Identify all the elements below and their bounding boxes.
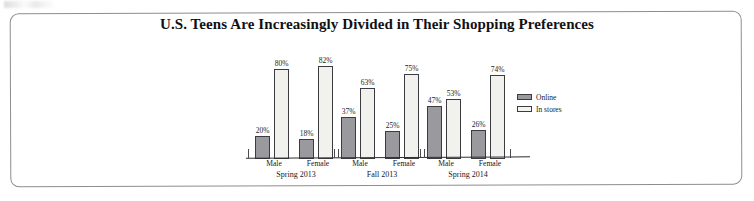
bar-pair: 20%80% — [252, 44, 296, 159]
bar-in-stores — [490, 75, 505, 159]
x-axis-period-label: Spring 2014 — [423, 170, 513, 179]
bar-slot: 53% — [446, 44, 461, 159]
x-axis-category-label: Female — [294, 159, 342, 168]
bar-slot: 25% — [385, 44, 400, 159]
bar-value-label: 25% — [386, 121, 400, 130]
bar-slot: 26% — [471, 44, 486, 159]
bar-value-label: 53% — [447, 89, 461, 98]
x-axis-category-label: Female — [380, 159, 428, 168]
bar-pair: 37%63% — [338, 44, 382, 159]
bar-slot: 18% — [299, 44, 314, 159]
bar-slot: 37% — [341, 44, 356, 159]
bar-slot: 75% — [404, 44, 419, 159]
legend-item-online: Online — [517, 92, 562, 102]
bar-online — [471, 130, 486, 159]
bar-slot: 63% — [360, 44, 375, 159]
bar-in-stores — [404, 74, 419, 159]
bar-online — [341, 117, 356, 159]
x-axis-category-label: Female — [466, 159, 514, 168]
bar-value-label: 82% — [319, 56, 333, 65]
bar-group: 47%53%26%74% — [424, 44, 512, 159]
chart-legend: Online In stores — [517, 92, 562, 116]
bar-group: 37%63%25%75% — [338, 44, 426, 159]
x-axis-period-label: Fall 2013 — [337, 170, 427, 179]
x-axis-tick — [338, 149, 339, 158]
scan-artifact — [4, 1, 56, 8]
x-axis-tick — [334, 149, 335, 158]
bar-value-label: 75% — [405, 64, 419, 73]
x-axis-category-label: Male — [336, 159, 384, 168]
bar-group: 20%80%18%82% — [252, 44, 340, 159]
plot-area: 20%80%18%82%37%63%25%75%47%53%26%74% — [248, 44, 536, 159]
bar-value-label: 26% — [472, 120, 486, 129]
bar-value-label: 37% — [342, 107, 356, 116]
x-axis-tick — [420, 149, 421, 158]
bar-value-label: 63% — [361, 78, 375, 87]
bar-slot: 80% — [274, 44, 289, 159]
bar-pair: 26%74% — [468, 44, 512, 159]
x-axis-category-label: Male — [422, 159, 470, 168]
bar-online — [255, 136, 270, 159]
bar-slot: 20% — [255, 44, 270, 159]
bar-slot: 74% — [490, 44, 505, 159]
x-axis-category-label: Male — [250, 159, 298, 168]
x-axis-tick — [510, 149, 511, 158]
legend-label-in-stores: In stores — [536, 105, 562, 114]
bar-pair: 18%82% — [296, 44, 340, 159]
legend-label-online: Online — [536, 93, 556, 102]
legend-item-in-stores: In stores — [517, 104, 562, 114]
bar-slot: 82% — [318, 44, 333, 159]
x-axis-period-label: Spring 2013 — [251, 170, 341, 179]
bar-value-label: 80% — [275, 59, 289, 68]
bar-in-stores — [318, 66, 333, 159]
x-axis-tick — [248, 149, 249, 158]
bar-in-stores — [274, 69, 289, 159]
bar-online — [385, 131, 400, 159]
bar-online — [299, 139, 314, 159]
bar-value-label: 47% — [428, 96, 442, 105]
bar-value-label: 20% — [256, 126, 270, 135]
bar-pair: 25%75% — [382, 44, 426, 159]
bar-pair: 47%53% — [424, 44, 468, 159]
bar-online — [427, 106, 442, 159]
bar-value-label: 18% — [300, 129, 314, 138]
x-axis-tick — [424, 149, 425, 158]
bar-value-label: 74% — [491, 65, 505, 74]
legend-swatch-online-icon — [517, 94, 532, 100]
bar-slot: 47% — [427, 44, 442, 159]
chart-title: U.S. Teens Are Increasingly Divided in T… — [0, 16, 754, 33]
bar-in-stores — [446, 99, 461, 159]
bar-in-stores — [360, 88, 375, 159]
legend-swatch-in-stores-icon — [517, 106, 532, 112]
